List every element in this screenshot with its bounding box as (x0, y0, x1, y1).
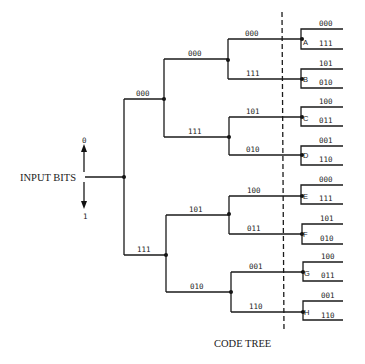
output-label: 011 (319, 116, 333, 125)
branch-label: 011 (247, 224, 261, 233)
output-label: 000 (319, 175, 333, 184)
diagram-caption: CODE TREE (214, 338, 271, 349)
input-bits-label: INPUT BITS (20, 172, 76, 183)
input-zero-label: 0 (82, 136, 87, 145)
code-tree-diagram: 0 1 INPUT BITS 000 111 000 111 101 010 (0, 0, 365, 364)
arrow-down-icon (81, 201, 87, 209)
output-label: 111 (319, 194, 333, 203)
branch-label: 110 (249, 302, 263, 311)
node-label: E (303, 192, 308, 201)
level3-branch-2: 101 010 (227, 107, 302, 155)
output-label: 001 (319, 136, 333, 145)
output-label: 101 (319, 59, 333, 68)
output-label: 111 (319, 39, 333, 48)
output-label: 101 (320, 214, 334, 223)
output-label: 010 (320, 234, 334, 243)
dashed-divider (282, 12, 284, 332)
node-label: H (304, 308, 309, 317)
level3-branch-3: 100 011 (227, 186, 302, 234)
leaf-b: B 101 010 (300, 59, 343, 88)
leaf-f: F 101 010 (300, 214, 343, 244)
level3-branch-1: 000 111 (226, 29, 302, 79)
level2-lower-branch: 101 010 (164, 205, 231, 292)
leaf-d: D 001 110 (300, 136, 343, 165)
branch-label: 010 (190, 282, 204, 291)
branch-label: 111 (188, 127, 202, 136)
output-label: 000 (319, 19, 333, 28)
leaf-g: G 100 011 (301, 252, 343, 281)
output-label: 011 (321, 271, 335, 280)
leaf-c: C 100 011 (300, 97, 343, 126)
branch-label: 101 (189, 205, 203, 214)
input-bits-indicator: 0 1 INPUT BITS (20, 136, 88, 221)
leaf-h: H 001 110 (301, 291, 343, 320)
output-label: 100 (319, 97, 333, 106)
branch-label: 010 (246, 145, 260, 154)
output-label: 110 (321, 311, 335, 320)
branch-label: 111 (246, 69, 260, 78)
node-label: F (303, 230, 308, 239)
branch-label: 000 (188, 49, 202, 58)
output-label: 010 (319, 78, 333, 87)
arrow-up-icon (81, 144, 87, 152)
root-branch: 000 111 (85, 89, 166, 255)
branch-label: 100 (247, 186, 261, 195)
node-label: G (304, 269, 310, 278)
node-label: B (303, 75, 308, 84)
leaf-a: A 000 111 (300, 19, 343, 49)
leaf-e: E 000 111 (300, 175, 343, 204)
branch-label: 000 (136, 89, 150, 98)
output-label: 110 (319, 155, 333, 164)
branch-label: 001 (249, 262, 263, 271)
level2-upper-branch: 000 111 (162, 49, 229, 137)
output-label: 100 (321, 252, 335, 261)
branch-label: 111 (137, 245, 151, 254)
branch-label: 101 (246, 107, 260, 116)
branch-label: 000 (245, 29, 259, 38)
node-label: D (303, 151, 309, 160)
output-label: 001 (321, 291, 335, 300)
input-one-label: 1 (83, 212, 88, 221)
level3-branch-4: 001 110 (229, 262, 303, 312)
node-label: C (303, 114, 309, 123)
node-label: A (303, 38, 308, 47)
